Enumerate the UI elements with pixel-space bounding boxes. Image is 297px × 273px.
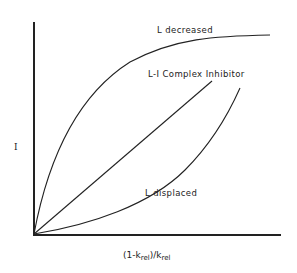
curve-l-displaced xyxy=(34,88,240,234)
label-l-displaced: L displaced xyxy=(145,188,197,198)
x-axis-label-prefix: (1-k xyxy=(123,250,141,260)
label-l-decreased: L decreased xyxy=(157,25,213,35)
x-axis-label-sub2: rel xyxy=(161,254,170,262)
line-l-i-complex-inhibitor xyxy=(34,81,212,234)
y-axis-label: I xyxy=(14,142,18,152)
chart-plot-area xyxy=(0,0,297,273)
label-l-i-complex-inhibitor: L-I Complex Inhibitor xyxy=(148,69,245,79)
x-axis-label-sub1: rel xyxy=(141,254,150,262)
x-axis-label: (1-krel)/krel xyxy=(123,250,170,262)
